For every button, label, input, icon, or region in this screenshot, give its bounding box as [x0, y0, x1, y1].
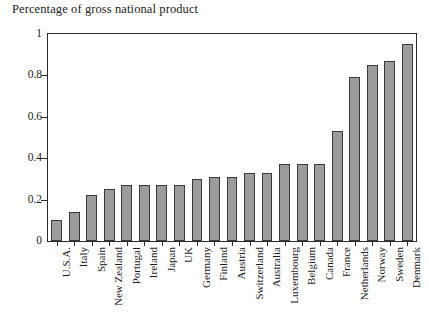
x-axis-tick-label: Ireland — [148, 247, 159, 278]
bar-series — [48, 34, 416, 241]
bar — [349, 77, 360, 241]
x-axis-tick-mark — [92, 242, 93, 246]
x-axis-tick-mark — [197, 242, 198, 246]
x-axis-tick-mark — [267, 242, 268, 246]
x-axis-tick-label: Portugal — [131, 247, 142, 284]
x-axis-tick-mark — [302, 242, 303, 246]
bar — [69, 212, 80, 241]
bar — [209, 177, 220, 241]
x-axis-tick-label: Germany — [201, 247, 212, 288]
x-axis-tick-label: UK — [183, 247, 194, 263]
x-axis-tick-mark — [285, 242, 286, 246]
x-axis-tick-label: Finland — [218, 247, 229, 281]
x-axis-tick-mark — [320, 242, 321, 246]
chart-figure: Percentage of gross national product 00.… — [0, 0, 429, 335]
bar — [297, 164, 308, 241]
x-axis-tick-label: Sweden — [394, 247, 405, 282]
x-axis-tick-mark — [57, 242, 58, 246]
x-axis-tick-label: Japan — [166, 247, 177, 272]
x-axis-tick-mark — [179, 242, 180, 246]
x-axis-tick-label: Spain — [96, 247, 107, 272]
x-axis-tick-mark — [372, 242, 373, 246]
x-axis-tick-mark — [337, 242, 338, 246]
bar — [332, 131, 343, 241]
bar — [244, 173, 255, 241]
x-axis-tick-label: Switzerland — [254, 247, 265, 300]
bar — [314, 164, 325, 241]
x-axis-tick-label: Luxembourg — [289, 247, 300, 304]
bar — [121, 185, 132, 241]
x-axis-tick-mark — [390, 242, 391, 246]
bar — [367, 65, 378, 241]
y-axis-tick-label: 0.6 — [0, 111, 42, 122]
x-axis-tick-label: U.S.A. — [61, 247, 72, 277]
x-axis-tick-mark — [127, 242, 128, 246]
x-axis-tick-label: Italy — [78, 247, 89, 267]
y-axis-tick-label: 0.4 — [0, 152, 42, 163]
x-axis-tick-label: Netherlands — [359, 247, 370, 300]
x-axis-tick-label: Canada — [324, 247, 335, 280]
x-axis-tick-mark — [162, 242, 163, 246]
bar — [402, 44, 413, 241]
y-axis-tick-label: 0 — [0, 235, 42, 246]
x-axis-tick-labels: U.S.A.ItalySpainNew ZealandPortugalIrela… — [48, 247, 416, 335]
x-axis-tick-mark — [355, 242, 356, 246]
bar — [51, 220, 62, 241]
x-axis-tick-label: New Zealand — [113, 247, 124, 306]
x-axis-tick-mark — [407, 242, 408, 246]
x-axis-tick-label: Austria — [236, 247, 247, 279]
bar — [174, 185, 185, 241]
y-axis-tick-label: 0.8 — [0, 69, 42, 80]
x-axis-tick-mark — [250, 242, 251, 246]
y-axis-tick-labels: 00.20.40.60.81 — [0, 33, 42, 242]
x-axis-tick-label: Australia — [271, 247, 282, 287]
x-axis-tick-label: Denmark — [411, 247, 422, 288]
y-axis-tick-label: 1 — [0, 28, 42, 39]
x-axis-tick-label: France — [341, 247, 352, 277]
bar — [86, 195, 97, 241]
bar — [156, 185, 167, 241]
bar — [384, 61, 395, 241]
bar — [192, 179, 203, 241]
chart-title: Percentage of gross national product — [12, 2, 198, 17]
y-axis-tick-label: 0.2 — [0, 194, 42, 205]
x-axis-tick-mark — [144, 242, 145, 246]
bar — [227, 177, 238, 241]
x-axis-tick-mark — [109, 242, 110, 246]
bar — [139, 185, 150, 241]
x-axis-tick-label: Belgium — [306, 247, 317, 285]
bar — [279, 164, 290, 241]
x-axis-tick-label: Norway — [376, 247, 387, 282]
x-axis-tick-mark — [214, 242, 215, 246]
x-axis-tick-mark — [232, 242, 233, 246]
bar — [104, 189, 115, 241]
x-axis-tick-mark — [74, 242, 75, 246]
bar — [262, 173, 273, 241]
